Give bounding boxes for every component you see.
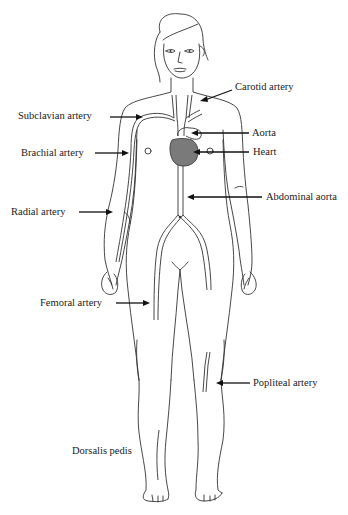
label-subclavian-artery: Subclavian artery: [18, 110, 92, 122]
label-arrows: [79, 90, 262, 386]
label-aorta: Aorta: [252, 127, 276, 139]
legs-outline: [137, 340, 225, 502]
label-brachial-artery: Brachial artery: [21, 147, 84, 159]
label-dorsalis-pedis: Dorsalis pedis: [72, 445, 132, 457]
label-abdominal-aorta: Abdominal aorta: [266, 191, 337, 203]
label-popliteal-artery: Popliteal artery: [253, 377, 317, 389]
head-outline: [154, 14, 208, 82]
label-carotid-artery: Carotid artery: [235, 81, 294, 93]
label-radial-artery: Radial artery: [11, 206, 66, 218]
label-femoral-artery: Femoral artery: [40, 297, 102, 309]
human-body-figure: [0, 0, 348, 515]
artery-diagram: Carotid artery Subclavian artery Aorta B…: [0, 0, 348, 515]
label-heart: Heart: [253, 146, 276, 158]
torso-outline: [104, 78, 252, 380]
